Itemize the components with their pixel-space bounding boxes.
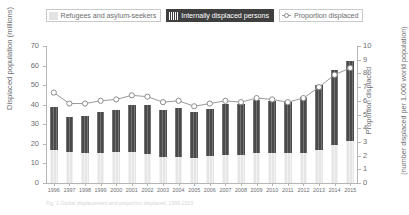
y-axis-left-tick-label: 70 bbox=[19, 42, 39, 50]
bar-segment-refugees[interactable] bbox=[300, 153, 308, 183]
bar-segment-refugees[interactable] bbox=[50, 150, 58, 183]
bar-segment-idp[interactable] bbox=[175, 108, 183, 158]
x-axis-tick bbox=[335, 183, 336, 186]
x-axis-tick bbox=[225, 183, 226, 186]
y-axis-right-tick-label: 1 bbox=[363, 165, 383, 173]
bar-group[interactable] bbox=[206, 46, 214, 183]
bar-group[interactable] bbox=[331, 46, 339, 183]
bar-group[interactable] bbox=[284, 46, 292, 183]
bar-segment-refugees[interactable] bbox=[128, 152, 136, 183]
y-axis-left-tick-label: 10 bbox=[19, 159, 39, 167]
y-axis-right-tick bbox=[358, 73, 361, 74]
y-axis-right-tick bbox=[358, 183, 361, 184]
y-axis-right-tick-label: 10 bbox=[363, 42, 383, 50]
x-axis-tick-label: 2015 bbox=[339, 187, 361, 193]
bar-group[interactable] bbox=[268, 46, 276, 183]
bar-group[interactable] bbox=[66, 46, 74, 183]
bar-segment-idp[interactable] bbox=[206, 109, 214, 157]
bar-segment-refugees[interactable] bbox=[222, 155, 230, 183]
bar-segment-idp[interactable] bbox=[346, 61, 354, 141]
bar-segment-idp[interactable] bbox=[315, 85, 323, 150]
bar-segment-refugees[interactable] bbox=[112, 152, 120, 183]
x-axis-tick bbox=[147, 183, 148, 186]
bar-group[interactable] bbox=[346, 46, 354, 183]
bar-segment-idp[interactable] bbox=[268, 101, 276, 153]
bar-segment-refugees[interactable] bbox=[175, 157, 183, 183]
x-axis-tick bbox=[194, 183, 195, 186]
bar-segment-refugees[interactable] bbox=[81, 153, 89, 183]
bar-group[interactable] bbox=[50, 46, 58, 183]
bar-segment-idp[interactable] bbox=[190, 112, 198, 158]
bar-segment-refugees[interactable] bbox=[237, 155, 245, 183]
bar-group[interactable] bbox=[81, 46, 89, 183]
x-axis-tick bbox=[116, 183, 117, 186]
x-axis-tick bbox=[101, 183, 102, 186]
bar-segment-refugees[interactable] bbox=[315, 150, 323, 183]
y-axis-right-tick bbox=[358, 128, 361, 129]
bar-segment-refugees[interactable] bbox=[268, 153, 276, 183]
x-axis-tick bbox=[241, 183, 242, 186]
bar-segment-refugees[interactable] bbox=[159, 157, 167, 183]
bar-segment-refugees[interactable] bbox=[190, 158, 198, 183]
x-axis-tick bbox=[163, 183, 164, 186]
bar-segment-refugees[interactable] bbox=[66, 152, 74, 183]
bar-segment-idp[interactable] bbox=[159, 110, 167, 157]
bar-segment-refugees[interactable] bbox=[253, 153, 261, 183]
bar-group[interactable] bbox=[175, 46, 183, 183]
bar-segment-idp[interactable] bbox=[331, 70, 339, 145]
x-axis-tick bbox=[288, 183, 289, 186]
bar-segment-idp[interactable] bbox=[97, 112, 105, 153]
bar-segment-idp[interactable] bbox=[284, 102, 292, 154]
x-axis-tick bbox=[69, 183, 70, 186]
bar-segment-idp[interactable] bbox=[50, 107, 58, 150]
bar-segment-idp[interactable] bbox=[222, 104, 230, 155]
x-axis-tick bbox=[85, 183, 86, 186]
bar-segment-refugees[interactable] bbox=[331, 145, 339, 183]
y-axis-left-tick bbox=[43, 183, 46, 184]
bar-segment-refugees[interactable] bbox=[284, 153, 292, 183]
bar-group[interactable] bbox=[222, 46, 230, 183]
y-axis-right-tick-label: 8 bbox=[363, 69, 383, 77]
bar-segment-idp[interactable] bbox=[112, 110, 120, 151]
bar-segment-refugees[interactable] bbox=[206, 156, 214, 183]
x-axis-tick bbox=[179, 183, 180, 186]
bar-segment-idp[interactable] bbox=[237, 104, 245, 155]
y-axis-right-tick-label: 4 bbox=[363, 124, 383, 132]
y-axis-right-tick-label: 9 bbox=[363, 56, 383, 64]
bar-group[interactable] bbox=[112, 46, 120, 183]
bar-group[interactable] bbox=[97, 46, 105, 183]
bar-group[interactable] bbox=[144, 46, 152, 183]
bar-group[interactable] bbox=[315, 46, 323, 183]
y-axis-left-tick-label: 0 bbox=[19, 179, 39, 187]
bar-segment-idp[interactable] bbox=[300, 97, 308, 153]
bar-segment-idp[interactable] bbox=[81, 116, 89, 154]
bar-group[interactable] bbox=[190, 46, 198, 183]
bar-segment-idp[interactable] bbox=[128, 105, 136, 152]
chart-caption: Fig. 1 Global displacement and proportio… bbox=[46, 200, 346, 206]
x-axis-tick bbox=[210, 183, 211, 186]
bar-group[interactable] bbox=[128, 46, 136, 183]
x-axis-tick bbox=[272, 183, 273, 186]
bar-group[interactable] bbox=[159, 46, 167, 183]
bar-segment-idp[interactable] bbox=[253, 100, 261, 153]
x-axis-tick bbox=[303, 183, 304, 186]
y-axis-right-tick-label: 5 bbox=[363, 111, 383, 119]
bar-group[interactable] bbox=[237, 46, 245, 183]
bar-segment-idp[interactable] bbox=[66, 117, 74, 152]
x-axis-line bbox=[46, 183, 358, 184]
bar-segment-idp[interactable] bbox=[144, 105, 152, 154]
bar-segment-refugees[interactable] bbox=[144, 154, 152, 183]
bar-group[interactable] bbox=[253, 46, 261, 183]
bar-segment-refugees[interactable] bbox=[346, 141, 354, 183]
y-axis-left-tick-label: 20 bbox=[19, 140, 39, 148]
y-axis-right-tick bbox=[358, 60, 361, 61]
x-axis-tick bbox=[350, 183, 351, 186]
bar-segment-refugees[interactable] bbox=[97, 153, 105, 183]
y-axis-left-tick-label: 30 bbox=[19, 120, 39, 128]
plot-area bbox=[46, 46, 358, 183]
y-axis-left-tick-label: 40 bbox=[19, 101, 39, 109]
y-axis-left-tick-label: 60 bbox=[19, 62, 39, 70]
y-axis-right-title-sub: (number displaced per 1,000 world popula… bbox=[399, 26, 408, 176]
bar-group[interactable] bbox=[300, 46, 308, 183]
y-axis-left-title: Displaced population (millions) bbox=[5, 0, 14, 134]
